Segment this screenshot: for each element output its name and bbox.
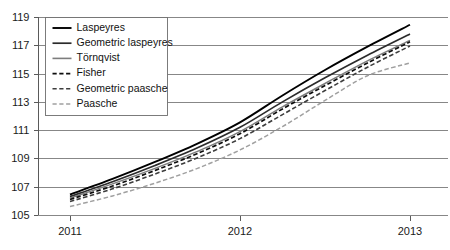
x-axis-ticks <box>71 216 411 221</box>
y-axis-label-105: 105 <box>11 209 29 221</box>
y-axis-label-119: 119 <box>12 11 30 23</box>
legend-label-geometric-paasche: Geometric paasche <box>77 82 168 94</box>
y-axis-label-109: 109 <box>11 152 29 164</box>
legend-label-laspeyres: Laspeyres <box>77 21 125 33</box>
y-axis-label-107: 107 <box>11 181 29 193</box>
y-axis-label-113: 113 <box>12 96 30 108</box>
legend-label-t-rnqvist: Törnqvist <box>77 51 120 63</box>
x-axis-label-2013: 2013 <box>398 225 422 237</box>
y-axis-label-117: 117 <box>12 39 30 51</box>
y-axis-ticks <box>34 18 38 216</box>
legend-label-fisher: Fisher <box>77 66 107 78</box>
y-axis-label-111: 111 <box>13 124 30 136</box>
legend-label-geometric-laspeyres: Geometric laspeyres <box>77 36 173 48</box>
y-axis-labels: 105107109111113115117119 <box>11 11 29 221</box>
chart-legend: LaspeyresGeometric laspeyresTörnqvistFis… <box>46 18 173 116</box>
chart-canvas: 105107109111113115117119 201120122013 La… <box>0 0 450 250</box>
y-axis-label-115: 115 <box>12 68 30 80</box>
line-chart: 105107109111113115117119 201120122013 La… <box>0 0 450 250</box>
legend-label-paasche: Paasche <box>77 97 118 109</box>
x-axis-label-2011: 2011 <box>58 225 82 237</box>
x-axis-label-2012: 2012 <box>228 225 252 237</box>
x-axis-labels: 201120122013 <box>58 225 422 237</box>
